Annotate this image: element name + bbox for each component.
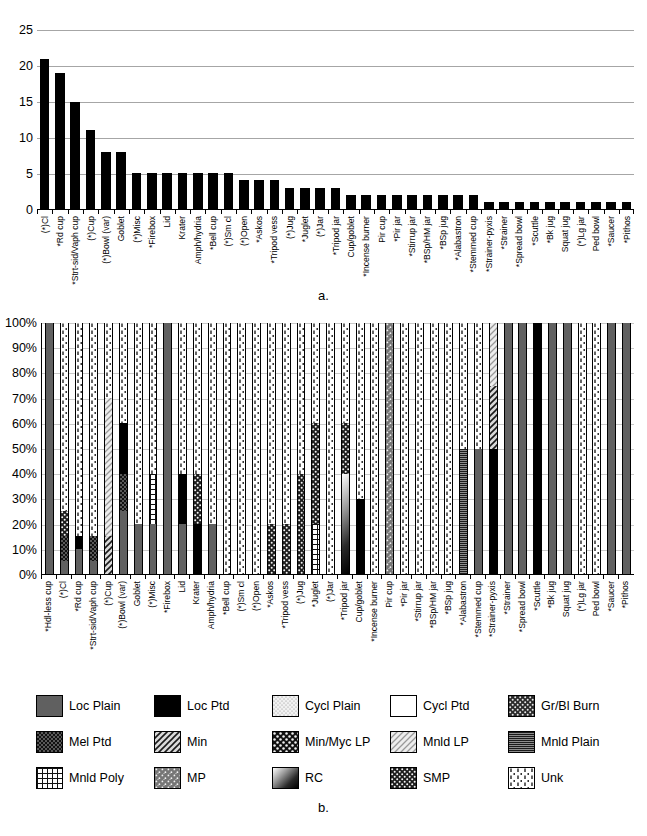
chart-b-category-label: *Hdl-less cup <box>44 581 53 632</box>
legend-swatch <box>154 767 181 789</box>
chart-a-bar <box>453 195 463 209</box>
chart-b-stacked-bar <box>178 323 187 574</box>
chart-b-segment-unk <box>179 323 186 474</box>
chart-a-bar-cell <box>604 30 619 209</box>
chart-b-category-label: Goblet <box>133 581 142 606</box>
chart-a-bar <box>560 202 570 209</box>
chart-b-bar-cell <box>249 323 264 574</box>
chart-b-bar-cell <box>560 323 575 574</box>
chart-b-y-tick-label: 40% <box>12 467 37 481</box>
chart-b-segment-unk <box>61 323 68 511</box>
chart-a-category-label: (*)Sm cl <box>224 216 233 247</box>
chart-a-bars <box>37 30 634 209</box>
chart-b-bar-cell <box>589 323 604 574</box>
chart-b-stacked-bar <box>237 323 246 574</box>
chart-b-bar-cell <box>397 323 412 574</box>
chart-b-bar-cell <box>530 323 545 574</box>
chart-b-stacked-bar <box>415 323 424 574</box>
chart-b-segment-unk <box>90 323 97 536</box>
chart-a-bar <box>438 195 448 209</box>
chart-a-bar <box>101 152 111 209</box>
chart-b-stacked-bar <box>489 323 498 574</box>
chart-b-stacked-bar <box>548 323 557 574</box>
chart-a-category-label: *Saucer <box>607 216 616 247</box>
legend-item-mp: MP <box>154 767 272 789</box>
chart-b-category-label: *Alabastron <box>458 581 467 625</box>
chart-b-bar-cell <box>264 323 279 574</box>
chart-b-category-label: Squat jug <box>562 581 571 617</box>
chart-a-category-label: Lid <box>163 216 172 227</box>
chart-b-bar-cell <box>205 323 220 574</box>
chart-b-category-label: (*)Sm cl <box>236 581 245 612</box>
chart-b-label-cell: (*)Jug <box>293 579 308 674</box>
chart-a-category-label: (*)Lg jar <box>576 216 585 247</box>
chart-b-segment-mnld-lp <box>490 323 497 386</box>
chart-b-category-label: (*)Cup <box>103 581 112 606</box>
chart-b-label-cell: *Bk jug <box>544 579 559 674</box>
chart-b-bar-cell <box>456 323 471 574</box>
chart-b-label-cell: *Hdl-less cup <box>41 579 56 674</box>
chart-b-segment-unk <box>579 323 586 574</box>
chart-a-bar-cell <box>52 30 67 209</box>
chart-a-category-label: (*)Misc <box>132 216 141 243</box>
chart-a-bar-cell <box>466 30 481 209</box>
chart-a-bar <box>392 195 402 209</box>
legend-item-cycl-ptd: Cycl Ptd <box>390 695 508 717</box>
chart-a-bar-cell <box>573 30 588 209</box>
chart-b-segment-loc-plain <box>519 323 526 574</box>
chart-b-segment-unk <box>416 323 423 574</box>
chart-b-segment-loc-ptd <box>179 474 186 524</box>
chart-b-bar-cell <box>338 323 353 574</box>
legend-item-cycl-plain: Cycl Plain <box>272 695 390 717</box>
chart-b-segment-unk <box>431 323 438 574</box>
chart-a-bar <box>545 202 555 209</box>
chart-b-stacked-bar <box>223 323 232 574</box>
chart-b-segment-unk <box>357 323 364 499</box>
figure-page: 0510152025 (*)Cl*Rd cup*Strt-sid/Vaph cu… <box>0 0 647 836</box>
legend-item-loc-ptd: Loc Ptd <box>154 695 272 717</box>
chart-a-category-label: *Strainer <box>500 216 509 249</box>
chart-a-bar-cell <box>236 30 251 209</box>
chart-b-category-label: *Saucer <box>606 581 615 612</box>
chart-b-label-cell: (*)Jar <box>322 579 337 674</box>
chart-a-bar-cell <box>527 30 542 209</box>
chart-b-stacked-bar <box>622 323 631 574</box>
legend-swatch <box>508 767 535 789</box>
chart-b-label-cell: *Strt-sid/Vaph cup <box>85 579 100 674</box>
chart-b-category-label: Lid <box>177 581 186 592</box>
chart-a-category-label: *Tripod vess <box>270 216 279 263</box>
chart-b-y-tick-label: 80% <box>12 366 37 380</box>
chart-a-category-label: *Stemmed cup <box>469 216 478 272</box>
chart-a-bar-counts: 0510152025 (*)Cl*Rd cup*Strt-sid/Vaph cu… <box>0 22 647 307</box>
legend-item-mel-ptd: Mel Ptd <box>36 731 154 753</box>
legend-label: Mel Ptd <box>69 735 111 749</box>
legend-label: Unk <box>541 771 563 785</box>
chart-b-segment-unk <box>253 323 260 574</box>
chart-b-segment-unk <box>327 323 334 574</box>
legend-item-min-myc-lp: Min/Myc LP <box>272 731 390 753</box>
chart-a-bar-cell <box>114 30 129 209</box>
legend-swatch <box>154 695 181 717</box>
chart-b-bar-cell <box>42 323 57 574</box>
chart-b-segment-loc-plain <box>179 524 186 574</box>
chart-a-bar-cell <box>435 30 450 209</box>
chart-b-bar-cell <box>501 323 516 574</box>
legend-swatch <box>508 695 535 717</box>
chart-b-category-label: *Pir jar <box>399 581 408 607</box>
chart-b-label-cell: *Pir jar <box>396 579 411 674</box>
chart-a-bar-cell <box>190 30 205 209</box>
chart-b-label-cell: (*)Cl <box>56 579 71 674</box>
chart-b-label-cell: *Incense burner <box>367 579 382 674</box>
chart-b-y-tick-label: 30% <box>12 492 37 506</box>
chart-a-category-label: (*)Cl <box>40 216 49 233</box>
chart-b-segment-unk <box>475 323 482 449</box>
chart-b-y-tick-label: 60% <box>12 417 37 431</box>
legend-item-mnld-lp: Mnld LP <box>390 731 508 753</box>
chart-b-segment-unk <box>460 323 467 449</box>
chart-b-segment-smp <box>268 524 275 574</box>
chart-b-bar-cell <box>368 323 383 574</box>
chart-a-bar-cell <box>221 30 236 209</box>
chart-b-label-cell: Squat jug <box>559 579 574 674</box>
chart-a-category-label: Cup/goblet <box>346 216 355 258</box>
chart-b-segment-smp <box>312 423 319 523</box>
